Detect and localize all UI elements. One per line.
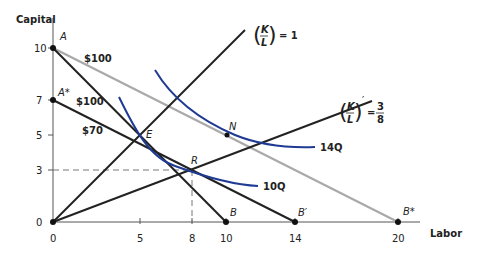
svg-text:3: 3 bbox=[377, 101, 384, 112]
expansion-ray-k-l-3-8 bbox=[53, 101, 372, 222]
point-origin bbox=[50, 219, 56, 225]
x-tick-0: 0 bbox=[50, 233, 56, 244]
cost-minimization-diagram: Capital Labor 10 7 5 3 0 0 5 8 10 14 20 bbox=[0, 0, 496, 257]
y-tick-7: 7 bbox=[36, 95, 42, 106]
label-a: A bbox=[59, 31, 67, 42]
x-tick-14: 14 bbox=[289, 233, 302, 244]
label-b: B bbox=[230, 207, 237, 218]
ray-label-k-l-1: ( K L ) = 1 bbox=[253, 22, 298, 48]
isoquant-label-10q: 10Q bbox=[263, 181, 285, 192]
isoquant-label-14q: 14Q bbox=[320, 142, 342, 153]
y-tick-3: 3 bbox=[36, 165, 42, 176]
point-b bbox=[223, 219, 229, 225]
x-tick-5: 5 bbox=[137, 233, 143, 244]
isocost-line-a-star-b-prime bbox=[53, 100, 295, 222]
x-tick-10: 10 bbox=[220, 233, 233, 244]
point-b-star bbox=[395, 219, 401, 225]
point-a bbox=[50, 45, 56, 51]
label-r: R bbox=[191, 155, 198, 166]
x-axis-title: Labor bbox=[430, 228, 462, 239]
cost-label-ab: $100 bbox=[76, 96, 104, 107]
label-b-prime: B′ bbox=[298, 207, 308, 218]
cost-label-ab-star: $100 bbox=[84, 53, 112, 64]
y-ticks: 10 7 5 3 0 bbox=[34, 43, 53, 228]
svg-text:L: L bbox=[261, 37, 267, 48]
point-b-prime bbox=[292, 219, 298, 225]
svg-text:= 1: = 1 bbox=[279, 30, 298, 41]
label-b-star: B* bbox=[403, 206, 415, 217]
y-tick-10: 10 bbox=[34, 43, 47, 54]
label-n: N bbox=[229, 121, 237, 132]
y-tick-5: 5 bbox=[36, 130, 42, 141]
y-tick-0: 0 bbox=[36, 217, 42, 228]
ray-label-k-l-3-8: ( K L ) ′ = 3 8 bbox=[339, 95, 384, 125]
svg-text:L: L bbox=[347, 114, 353, 125]
point-a-star bbox=[50, 97, 56, 103]
label-a-star: A* bbox=[57, 87, 70, 98]
svg-text:8: 8 bbox=[377, 114, 384, 125]
svg-text:): ) bbox=[268, 22, 277, 47]
cost-label-a-star-b-prime: $70 bbox=[82, 125, 103, 136]
x-tick-8: 8 bbox=[189, 233, 195, 244]
isoquant-14q bbox=[155, 70, 315, 147]
svg-text:=: = bbox=[367, 107, 375, 118]
y-axis-title: Capital bbox=[16, 14, 56, 25]
label-e: E bbox=[146, 129, 153, 140]
x-tick-20: 20 bbox=[392, 233, 405, 244]
point-n bbox=[225, 133, 230, 138]
